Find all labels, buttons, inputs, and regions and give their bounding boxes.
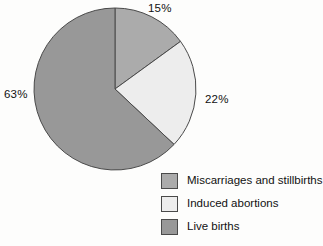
legend-swatch-icon	[161, 196, 178, 212]
chart-legend: Miscarriages and stillbirths Induced abo…	[161, 169, 318, 238]
pie-slices	[34, 8, 196, 170]
pie-value-label-induced-abortions: 22%	[205, 94, 229, 106]
legend-item-label: Miscarriages and stillbirths	[187, 175, 323, 187]
legend-item-live-births: Live births	[161, 215, 318, 238]
pie-value-label-live-births: 63%	[4, 89, 28, 101]
legend-item-miscarriages-and-stillbirths: Miscarriages and stillbirths	[161, 169, 318, 192]
legend-item-label: Live births	[187, 221, 239, 233]
legend-item-induced-abortions: Induced abortions	[161, 192, 318, 215]
legend-item-label: Induced abortions	[187, 198, 278, 210]
legend-swatch-icon	[161, 219, 178, 235]
legend-swatch-icon	[161, 173, 178, 189]
pie-value-label-miscarriages-and-stillbirths: 15%	[148, 3, 172, 15]
